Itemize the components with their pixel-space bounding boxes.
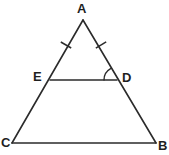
geometry-figure: A B C D E	[0, 0, 169, 155]
vertex-label-e: E	[33, 70, 42, 83]
vertex-label-a: A	[77, 2, 86, 15]
side-AB-line	[83, 20, 156, 143]
vertex-label-b: B	[158, 139, 167, 152]
geometry-diagram-canvas	[0, 0, 169, 155]
angle-arc-at-D	[104, 69, 111, 80]
side-AC-line	[12, 20, 83, 143]
vertex-label-c: C	[1, 136, 10, 149]
vertex-label-d: D	[122, 71, 131, 84]
